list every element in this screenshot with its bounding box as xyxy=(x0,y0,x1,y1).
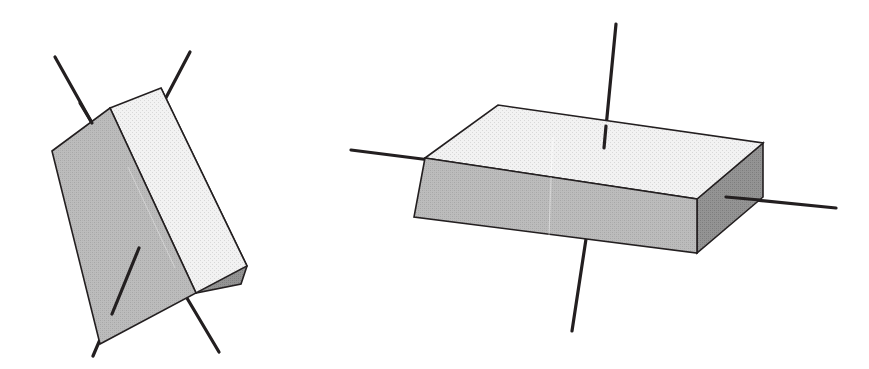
figure-root: Two shaded rectangular boxes with orient… xyxy=(0,0,869,369)
axis-vertical-top-tip xyxy=(604,126,606,148)
figure-canvas xyxy=(0,0,869,369)
